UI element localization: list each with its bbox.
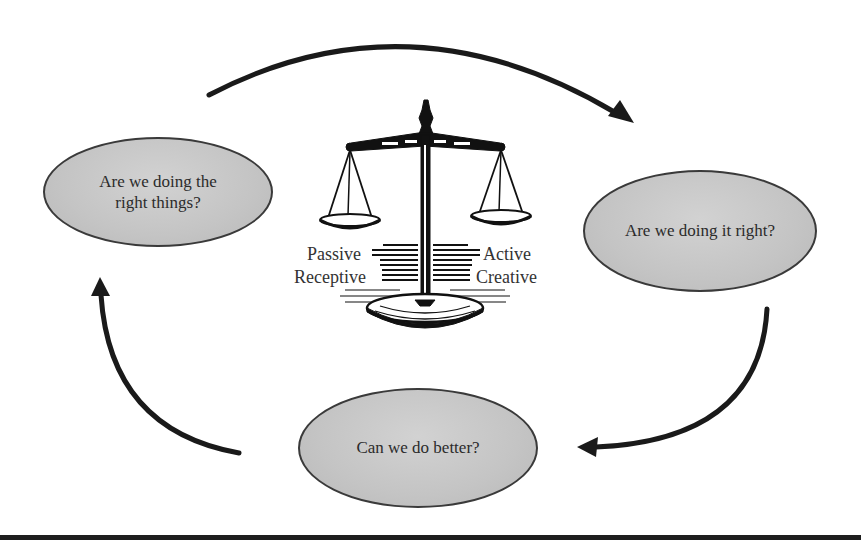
scale-label-creative: Creative (476, 268, 537, 286)
node-doing-it-right: Are we doing it right? (583, 170, 817, 292)
node-label-line1: Are we doing the (99, 171, 217, 192)
scale-label-active: Active (483, 245, 531, 263)
arrow-bottom-to-left-icon (91, 277, 239, 453)
node-do-better: Can we do better? (298, 388, 538, 508)
node-doing-right-things: Are we doing the right things? (43, 137, 273, 247)
scale-label-passive: Passive (307, 245, 361, 263)
balance-scale-icon (320, 100, 531, 328)
node-label: Are we doing it right? (625, 220, 775, 241)
scale-label-receptive: Receptive (294, 268, 366, 286)
bottom-divider (0, 535, 861, 540)
arrow-right-to-bottom-icon (577, 309, 767, 457)
node-label-line2: right things? (99, 192, 217, 213)
cycle-diagram: Are we doing the right things? Are we do… (0, 0, 861, 545)
node-label: Can we do better? (356, 437, 479, 458)
